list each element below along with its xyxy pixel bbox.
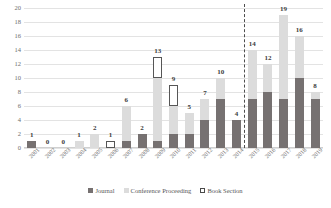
bar-segment-2019-conference-proceeding (311, 92, 320, 99)
x-slot-2002: 2002 (40, 150, 56, 180)
legend-label: Book Section (207, 187, 242, 194)
bar-segment-2014-journal (232, 120, 241, 148)
bar-total-label-2003: 0 (62, 139, 66, 146)
bar-slot-2015[interactable]: 14 (244, 8, 260, 148)
bar-slot-2001[interactable]: 1 (24, 8, 40, 148)
y-tick-4: 4 (18, 117, 21, 124)
bar-slot-2006[interactable]: 1 (103, 8, 119, 148)
bar-slot-2007[interactable]: 6 (118, 8, 134, 148)
bar-slot-2010[interactable]: 9 (166, 8, 182, 148)
bar-segment-2015-conference-proceeding (248, 50, 257, 99)
bar-segment-2015-journal (248, 99, 257, 148)
bar-total-label-2017: 19 (280, 6, 287, 13)
bar-segment-2010-conference-proceeding (169, 106, 178, 134)
legend-item-conference-proceeding[interactable]: Conference Proceeding (124, 187, 192, 194)
bar-segment-2010-book-section (169, 85, 178, 106)
legend-label: Journal (95, 187, 114, 194)
bar-slot-2005[interactable]: 2 (87, 8, 103, 148)
bar-segment-2013-journal (216, 99, 225, 148)
period-divider-line (244, 4, 245, 148)
bar-stack-2010: 9 (169, 85, 178, 148)
bar-slot-2009[interactable]: 13 (150, 8, 166, 148)
bar-total-label-2005: 2 (93, 125, 97, 132)
y-tick-18: 18 (15, 19, 22, 26)
bar-stack-2005: 2 (90, 134, 99, 148)
x-slot-2011: 2011 (181, 150, 197, 180)
bar-total-label-2006: 1 (109, 132, 113, 139)
legend-item-journal[interactable]: Journal (88, 187, 114, 194)
bar-slot-2012[interactable]: 7 (197, 8, 213, 148)
bar-segment-2012-journal (200, 120, 209, 148)
bar-segment-2018-journal (295, 78, 304, 148)
y-tick-8: 8 (18, 89, 21, 96)
bar-total-label-2008: 2 (140, 125, 144, 132)
bar-slot-2014[interactable]: 4 (229, 8, 245, 148)
y-tick-2: 2 (18, 131, 21, 138)
x-slot-2019: 2019 (307, 150, 323, 180)
bar-slot-2004[interactable]: 1 (71, 8, 87, 148)
bar-slot-2017[interactable]: 19 (276, 8, 292, 148)
bar-stack-2009: 13 (153, 57, 162, 148)
x-slot-2014: 2014 (229, 150, 245, 180)
bar-segment-2016-conference-proceeding (263, 64, 272, 92)
bar-stack-2011: 5 (185, 113, 194, 148)
bar-slot-2013[interactable]: 10 (213, 8, 229, 148)
plot-area: 1001216213957104141219168 (24, 8, 323, 148)
y-tick-16: 16 (15, 33, 22, 40)
x-slot-2005: 2005 (87, 150, 103, 180)
bar-total-label-2010: 9 (172, 76, 176, 83)
bar-total-label-2015: 14 (249, 41, 256, 48)
x-slot-2017: 2017 (276, 150, 292, 180)
bar-total-label-2014: 4 (235, 111, 239, 118)
bar-stack-2012: 7 (200, 99, 209, 148)
legend-item-book-section[interactable]: Book Section (200, 187, 242, 194)
bar-segment-2011-conference-proceeding (185, 113, 194, 134)
bar-segment-2018-conference-proceeding (295, 36, 304, 78)
bar-total-label-2019: 8 (313, 83, 317, 90)
x-axis-tick-labels: 2001200220032004200520062007200820092010… (24, 150, 323, 180)
x-slot-2008: 2008 (134, 150, 150, 180)
bar-stack-2013: 10 (216, 78, 225, 148)
bar-slot-2019[interactable]: 8 (307, 8, 323, 148)
x-slot-2007: 2007 (118, 150, 134, 180)
bar-total-label-2018: 16 (296, 27, 303, 34)
x-slot-2006: 2006 (103, 150, 119, 180)
bar-total-label-2001: 1 (30, 132, 34, 139)
bar-segment-2017-journal (279, 99, 288, 148)
x-slot-2013: 2013 (213, 150, 229, 180)
x-slot-2015: 2015 (244, 150, 260, 180)
y-axis-tick-labels: 02468101214161820 (0, 8, 24, 148)
bar-stack-2007: 6 (122, 106, 131, 148)
y-tick-14: 14 (15, 47, 22, 54)
x-slot-2001: 2001 (24, 150, 40, 180)
bar-slot-2011[interactable]: 5 (181, 8, 197, 148)
x-slot-2012: 2012 (197, 150, 213, 180)
bar-slot-2016[interactable]: 12 (260, 8, 276, 148)
bar-segment-2005-conference-proceeding (90, 134, 99, 148)
bar-total-label-2002: 0 (46, 139, 50, 146)
bar-total-label-2016: 12 (264, 55, 271, 62)
bar-stack-2015: 14 (248, 50, 257, 148)
bar-total-label-2007: 6 (125, 97, 129, 104)
bar-slot-2008[interactable]: 2 (134, 8, 150, 148)
y-tick-10: 10 (15, 75, 22, 82)
journal-swatch-icon (88, 188, 93, 193)
bar-total-label-2012: 7 (203, 90, 207, 97)
legend-label: Conference Proceeding (131, 187, 192, 194)
bar-segment-2009-book-section (153, 57, 162, 78)
publications-by-year-chart: 02468101214161820 1001216213957104141219… (0, 0, 331, 208)
bar-total-label-2009: 13 (154, 48, 161, 55)
bar-slot-2003[interactable]: 0 (55, 8, 71, 148)
y-tick-6: 6 (18, 103, 21, 110)
bar-segment-2016-journal (263, 92, 272, 148)
x-slot-2009: 2009 (150, 150, 166, 180)
book-section-swatch-icon (200, 188, 205, 193)
bar-total-label-2004: 1 (77, 132, 81, 139)
bar-stack-2014: 4 (232, 120, 241, 148)
bar-slot-2018[interactable]: 16 (291, 8, 307, 148)
bar-series-container: 1001216213957104141219168 (24, 8, 323, 148)
conference-swatch-icon (124, 188, 129, 193)
bar-slot-2002[interactable]: 0 (40, 8, 56, 148)
x-slot-2003: 2003 (55, 150, 71, 180)
x-slot-2018: 2018 (291, 150, 307, 180)
